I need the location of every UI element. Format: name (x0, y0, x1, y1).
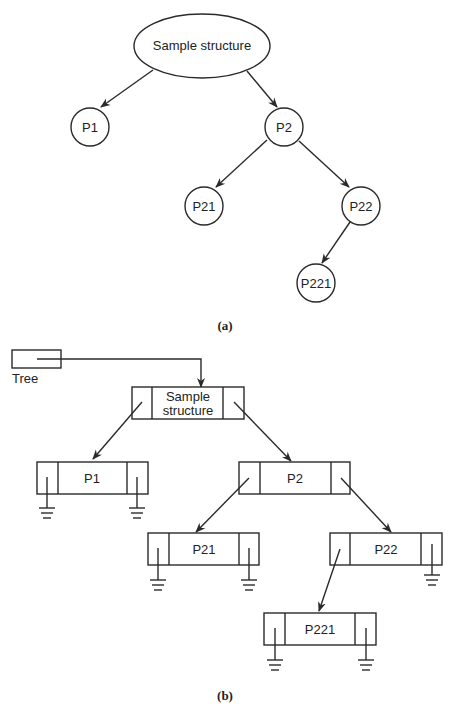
svg-text:P221: P221 (305, 622, 335, 637)
record-p221: P221 (264, 613, 376, 670)
ground-icon (358, 660, 374, 670)
svg-text:P22: P22 (374, 542, 397, 557)
record-p2: P2 (239, 462, 350, 494)
tree-pointer: Tree (12, 350, 201, 387)
svg-text:P21: P21 (192, 199, 215, 214)
node-p2: P2 (265, 108, 303, 146)
ground-icon (267, 660, 283, 670)
node-p21: P21 (185, 187, 223, 225)
root-record: Sample structure (132, 387, 244, 419)
record-p1: P1 (37, 462, 148, 518)
figure-b: Tree Sample structure P1 (12, 350, 442, 703)
ground-icon (39, 508, 55, 518)
svg-text:Sample: Sample (166, 389, 210, 404)
root-node: Sample structure (134, 14, 270, 78)
tree-diagram: Sample structure P1 P2 P21 P22 P221 (a) (0, 0, 456, 712)
svg-text:P22: P22 (349, 199, 372, 214)
caption-a: (a) (217, 318, 232, 333)
node-p221: P221 (297, 264, 335, 302)
svg-text:structure: structure (163, 403, 214, 418)
ground-icon (241, 580, 257, 590)
svg-text:P2: P2 (276, 120, 292, 135)
figure-a: Sample structure P1 P2 P21 P22 P221 (a) (71, 14, 380, 333)
node-p22: P22 (342, 187, 380, 225)
record-p22: P22 (330, 533, 442, 585)
svg-text:P1: P1 (84, 471, 100, 486)
svg-text:P2: P2 (287, 471, 303, 486)
svg-text:P1: P1 (82, 120, 98, 135)
ground-icon (150, 580, 166, 590)
tree-pointer-label: Tree (12, 371, 38, 386)
svg-text:P21: P21 (192, 542, 215, 557)
node-p1: P1 (71, 108, 109, 146)
ground-icon (424, 575, 440, 585)
record-p21: P21 (148, 533, 259, 590)
root-label: Sample structure (153, 38, 251, 53)
svg-text:P221: P221 (301, 276, 331, 291)
caption-b: (b) (217, 688, 233, 703)
ground-icon (129, 508, 145, 518)
